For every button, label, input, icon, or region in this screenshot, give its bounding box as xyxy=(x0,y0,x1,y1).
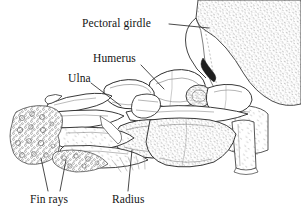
fin-skeleton-illustration xyxy=(0,0,301,214)
label-pectoral-girdle: Pectoral girdle xyxy=(82,17,151,29)
anatomical-figure: Pectoral girdle Humerus Ulna Fin rays Ra… xyxy=(0,0,301,214)
label-fin-rays: Fin rays xyxy=(30,193,68,205)
label-ulna: Ulna xyxy=(68,72,91,84)
label-radius: Radius xyxy=(112,193,145,205)
girdle-strut xyxy=(232,120,258,175)
distal-plate xyxy=(146,118,236,167)
label-humerus: Humerus xyxy=(93,52,136,64)
